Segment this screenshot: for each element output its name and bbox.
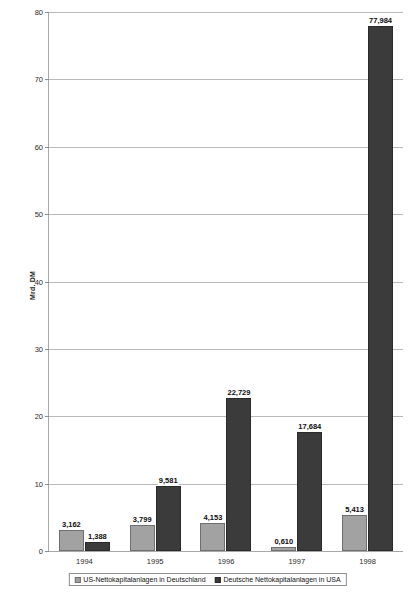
- bar[interactable]: 3,799: [130, 525, 155, 551]
- bar-value-label: 3,799: [132, 515, 153, 524]
- bar-group: 0,61017,6841997: [261, 12, 332, 551]
- legend-label: US-Nettokapitalanlagen in Deutschland: [83, 576, 205, 583]
- x-axis-tick-label: 1994: [76, 557, 93, 566]
- bar-chart: Mrd. DM 010203040506070803,1621,38819943…: [0, 0, 415, 595]
- bar-group: 4,15322,7291996: [191, 12, 262, 551]
- bar-group: 3,7999,5811995: [120, 12, 191, 551]
- y-axis-tick-label: 50: [35, 210, 43, 219]
- bar-group: 3,1621,3881994: [49, 12, 120, 551]
- bar-value-label: 5,413: [344, 505, 365, 514]
- plot-area: 010203040506070803,1621,38819943,7999,58…: [48, 12, 403, 552]
- bar-value-label: 0,610: [273, 537, 294, 546]
- legend-swatch-icon: [215, 577, 221, 583]
- y-axis-tick-label: 70: [35, 75, 43, 84]
- bar[interactable]: 3,162: [59, 530, 84, 551]
- bar-value-label: 22,729: [227, 388, 252, 397]
- bar-value-label: 9,581: [158, 476, 179, 485]
- bar[interactable]: 1,388: [85, 542, 110, 551]
- y-axis-tick-label: 30: [35, 344, 43, 353]
- bar[interactable]: 9,581: [156, 486, 181, 551]
- bar-value-label: 4,153: [203, 513, 224, 522]
- bar[interactable]: 77,984: [368, 26, 393, 551]
- y-axis-tick: [45, 551, 49, 552]
- bar-group: 5,41377,9841998: [332, 12, 403, 551]
- x-axis-tick-label: 1995: [147, 557, 164, 566]
- y-axis-tick-label: 20: [35, 412, 43, 421]
- y-axis-tick-label: 80: [35, 8, 43, 17]
- chart-legend: US-Nettokapitalanlagen in Deutschland De…: [68, 573, 346, 586]
- bar[interactable]: 4,153: [200, 523, 225, 551]
- bar[interactable]: 22,729: [226, 398, 251, 551]
- bar-value-label: 3,162: [61, 520, 82, 529]
- bar-value-label: 77,984: [368, 16, 393, 25]
- bar[interactable]: 5,413: [342, 515, 367, 551]
- y-axis-tick-label: 10: [35, 479, 43, 488]
- bar-value-label: 17,684: [297, 422, 322, 431]
- bar[interactable]: 17,684: [297, 432, 322, 551]
- x-axis-tick-label: 1997: [288, 557, 305, 566]
- y-axis-tick-label: 0: [39, 547, 43, 556]
- legend-item-us-net: US-Nettokapitalanlagen in Deutschland: [74, 576, 205, 583]
- legend-label: Deutsche Nettokapitalanlagen in USA: [224, 576, 341, 583]
- x-axis-tick-label: 1996: [218, 557, 235, 566]
- bar[interactable]: 0,610: [271, 547, 296, 551]
- y-axis-tick-label: 60: [35, 142, 43, 151]
- legend-swatch-icon: [74, 577, 80, 583]
- bar-value-label: 1,388: [87, 532, 108, 541]
- legend-item-de-net: Deutsche Nettokapitalanlagen in USA: [215, 576, 341, 583]
- x-axis-tick-label: 1998: [359, 557, 376, 566]
- y-axis-tick-label: 40: [35, 277, 43, 286]
